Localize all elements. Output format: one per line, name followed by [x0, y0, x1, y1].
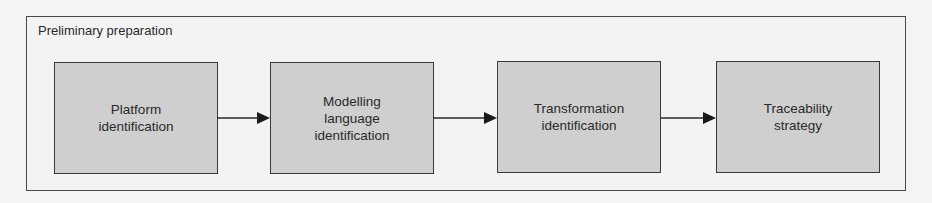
- group-title: Preliminary preparation: [38, 23, 172, 38]
- step-transformation-identification: Transformation identification: [497, 61, 661, 173]
- step-modelling-language-identification: Modelling language identification: [270, 62, 434, 174]
- step-line: Platform: [111, 102, 161, 117]
- arrow-icon: [434, 112, 498, 124]
- step-line: strategy: [774, 118, 822, 133]
- step-line: language: [324, 111, 380, 126]
- step-platform-identification: Platform identification: [54, 62, 218, 174]
- arrow-icon: [217, 112, 271, 124]
- step-line: identification: [314, 128, 389, 143]
- step-line: Modelling: [323, 94, 381, 109]
- step-line: identification: [541, 118, 616, 133]
- step-line: Traceability: [764, 101, 833, 116]
- arrow-icon: [661, 112, 717, 124]
- step-traceability-strategy: Traceability strategy: [716, 61, 880, 173]
- step-line: Transformation: [534, 101, 624, 116]
- step-line: identification: [98, 119, 173, 134]
